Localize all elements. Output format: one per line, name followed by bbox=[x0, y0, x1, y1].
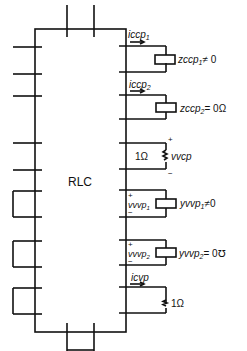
left-shorted-loop-1 bbox=[13, 191, 42, 217]
left-terminals bbox=[13, 47, 42, 170]
port-ccp1: iccp1 zccp1≠ 0 bbox=[119, 29, 217, 72]
impedance-zccp1 bbox=[155, 55, 175, 64]
block-label: RLC bbox=[68, 175, 92, 189]
impedance-label-zccp1: zccp1≠ 0 bbox=[177, 54, 217, 66]
left-shorted-loop-3 bbox=[13, 288, 42, 314]
plus-sign: + bbox=[128, 191, 133, 200]
left-shorted-loop-2 bbox=[13, 241, 42, 267]
admittance-yvvp2 bbox=[156, 248, 176, 257]
port-vvp1: + − vvvp1 yvvp1≠0 bbox=[119, 190, 216, 217]
plus-sign: + bbox=[168, 135, 173, 144]
rlc-network-diagram: RLC iccp1 zccp1≠ bbox=[0, 0, 247, 351]
minus-sign: − bbox=[168, 169, 173, 178]
resistor-label-1ohm: 1Ω bbox=[135, 151, 149, 162]
port-vvp2: + − vvvp2 yvvp2= 0℧ bbox=[119, 240, 226, 266]
current-label-iccp1: iccp1 bbox=[128, 29, 150, 41]
voltage-label-vvvp1: vvvp1 bbox=[128, 200, 150, 211]
resistor-icon bbox=[163, 150, 167, 160]
bottom-shorted-loop bbox=[67, 323, 94, 351]
current-label-icvp: icvp bbox=[131, 272, 149, 283]
resistor-label-1ohm: 1Ω bbox=[171, 298, 185, 309]
current-label-iccp2: iccp2 bbox=[129, 79, 151, 91]
port-vcp: 1Ω vvcp + − bbox=[119, 135, 192, 178]
port-ccp2: iccp2 zccp2= 0Ω bbox=[119, 79, 227, 119]
admittance-label-yvvp2: yvvp2= 0℧ bbox=[178, 248, 226, 260]
plus-sign: + bbox=[128, 240, 133, 249]
admittance-label-yvvp1: yvvp1≠0 bbox=[179, 198, 216, 210]
voltage-label-vvcp: vvcp bbox=[171, 151, 192, 162]
impedance-zccp2 bbox=[156, 103, 176, 112]
admittance-yvvp1 bbox=[156, 199, 176, 208]
port-cvp: icvp 1Ω bbox=[119, 272, 185, 313]
impedance-label-zccp2: zccp2= 0Ω bbox=[179, 103, 227, 115]
voltage-label-vvvp2: vvvp2 bbox=[128, 249, 151, 260]
